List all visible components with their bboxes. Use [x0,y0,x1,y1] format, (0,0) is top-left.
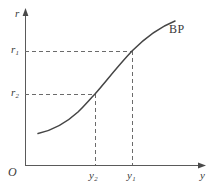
y-axis-arrowhead [23,8,29,16]
tick-label-r1-base: r [11,43,15,55]
tick-label-y2: y2 [89,170,98,183]
origin-label: O [8,166,17,178]
tick-label-y2-subscript: 2 [94,175,97,182]
tick-label-r1-subscript: 1 [16,49,19,56]
x-axis-label: y [200,170,205,181]
tick-label-y1: y1 [127,170,136,183]
x-axis-arrowhead [198,163,206,169]
tick-label-r1: r1 [11,44,19,57]
bp-curve-label: BP [169,23,184,35]
bp-curve-figure: r y O BP r1 r2 y2 y1 [0,0,214,186]
tick-label-r2-base: r [11,86,15,98]
tick-label-r2-subscript: 2 [16,92,19,99]
tick-label-r2: r2 [11,87,19,100]
y-axis-label: r [15,8,19,19]
bp-curve-path [38,21,175,134]
tick-label-y1-subscript: 1 [132,175,135,182]
